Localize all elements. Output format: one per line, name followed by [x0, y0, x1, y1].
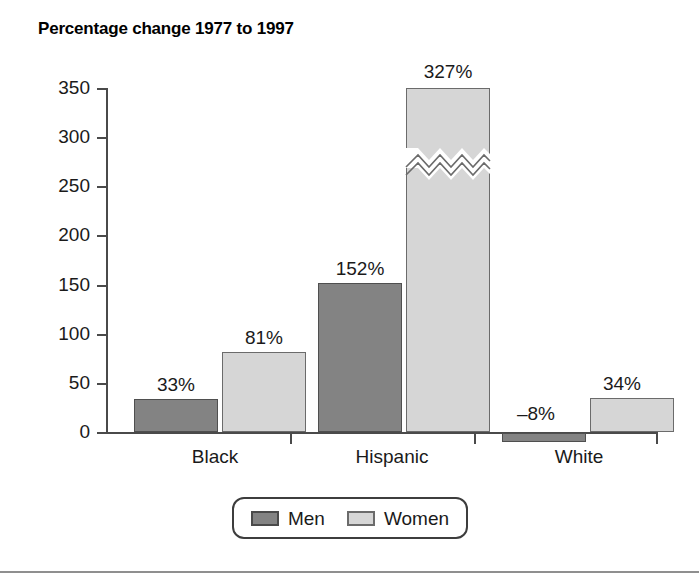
x-axis-tick-1 — [290, 434, 292, 444]
legend-entry-men[interactable]: Men — [251, 509, 325, 528]
bar-label-black-women: 81% — [222, 328, 306, 348]
x-axis-tick-end — [656, 434, 658, 444]
y-axis-label-150: 150 — [34, 275, 90, 294]
y-axis-tick-200 — [97, 235, 106, 237]
y-axis-tick-50 — [97, 383, 106, 385]
y-axis-label-200: 200 — [34, 225, 90, 244]
bottom-divider — [0, 571, 699, 573]
y-axis-label-350: 350 — [34, 78, 90, 97]
chart-legend: Men Women — [232, 497, 468, 539]
y-axis-label-250: 250 — [34, 176, 90, 195]
percentage-change-bar-chart: Percentage change 1977 to 1997 350 300 2… — [0, 0, 699, 580]
y-axis-tick-0 — [97, 432, 106, 434]
x-axis-category-white: White — [494, 446, 664, 468]
bar-label-hispanic-women: 327% — [406, 62, 490, 82]
bar-black-women[interactable] — [222, 352, 306, 432]
y-axis-tick-150 — [97, 285, 106, 287]
bar-label-white-men: –8% — [494, 404, 578, 424]
y-axis-line — [106, 88, 108, 434]
x-axis-tick-2 — [474, 434, 476, 444]
bar-label-white-women: 34% — [580, 374, 664, 394]
legend-swatch-men-icon — [251, 511, 279, 526]
x-axis-category-hispanic: Hispanic — [307, 446, 477, 468]
legend-label-men: Men — [288, 509, 325, 528]
plot-area: 350 300 250 200 150 100 50 0 — [0, 0, 699, 500]
bar-white-men[interactable] — [502, 433, 586, 442]
y-axis-label-300: 300 — [34, 127, 90, 146]
y-axis-label-0: 0 — [34, 422, 90, 441]
bar-hispanic-women[interactable] — [406, 88, 490, 432]
y-axis-label-100: 100 — [34, 324, 90, 343]
y-axis-label-50: 50 — [34, 373, 90, 392]
y-axis-tick-350 — [97, 88, 106, 90]
y-axis-tick-250 — [97, 186, 106, 188]
bar-label-hispanic-men: 152% — [318, 259, 402, 279]
legend-entry-women[interactable]: Women — [347, 509, 449, 528]
y-axis-tick-300 — [97, 137, 106, 139]
legend-swatch-women-icon — [347, 511, 375, 526]
bar-white-women[interactable] — [590, 398, 674, 432]
legend-label-women: Women — [384, 509, 449, 528]
bar-label-black-men: 33% — [134, 375, 218, 395]
bar-black-men[interactable] — [134, 399, 218, 432]
x-axis-category-black: Black — [130, 446, 300, 468]
y-axis-tick-100 — [97, 334, 106, 336]
bar-hispanic-men[interactable] — [318, 283, 402, 432]
